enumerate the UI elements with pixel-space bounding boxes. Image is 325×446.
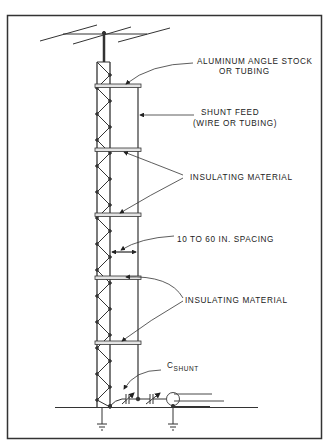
- label-spacing: 10 TO 60 IN. SPACING: [177, 235, 274, 244]
- ground-icon: [97, 408, 107, 430]
- label-shunt-feed-line1: SHUNT FEED: [201, 108, 259, 117]
- label-c-shunt: CSHUNT: [167, 361, 199, 372]
- label-insulating-lower: INSULATING MATERIAL: [185, 296, 288, 305]
- label-shunt-feed-line2: (WIRE OR TUBING): [193, 119, 277, 128]
- shunt-capacitors: [108, 393, 166, 408]
- insulating-crossbars: [95, 84, 141, 345]
- coax-cable: [167, 393, 225, 408]
- beam-antenna: [40, 25, 170, 62]
- diagram-frame: [8, 16, 322, 439]
- lattice-tower: [96, 62, 112, 408]
- ground-icon: [168, 408, 178, 430]
- label-insulating-upper: INSULATING MATERIAL: [190, 173, 293, 182]
- diagram-canvas: ALUMINUM ANGLE STOCK OR TUBING SHUNT FEE…: [0, 0, 325, 446]
- label-aluminum-line2: OR TUBING: [219, 67, 270, 76]
- label-aluminum-line1: ALUMINUM ANGLE STOCK: [197, 57, 313, 66]
- leader-lines: [112, 63, 194, 389]
